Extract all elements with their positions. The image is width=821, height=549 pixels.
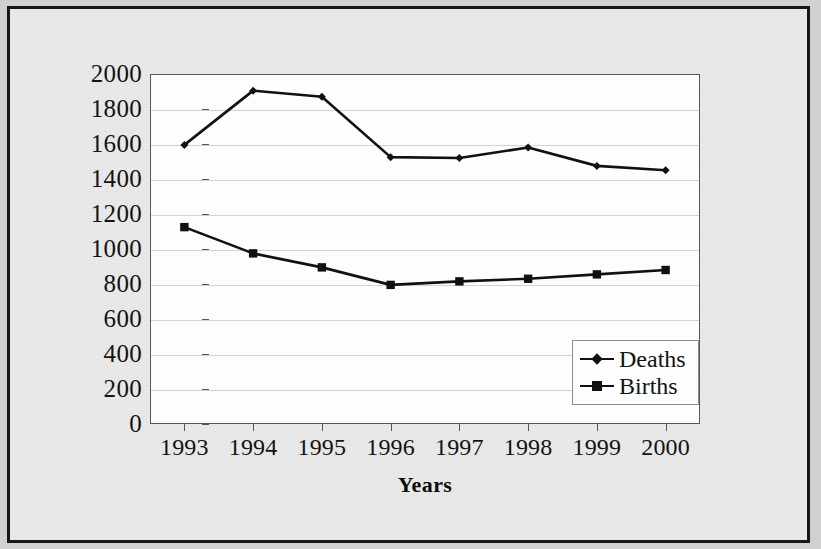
data-point-deaths [662, 166, 670, 174]
data-point-births [249, 249, 257, 257]
legend-label-births: Births [619, 374, 678, 398]
data-point-deaths [593, 162, 601, 170]
x-axis-tick-label: 1993 [160, 434, 209, 461]
data-point-deaths [524, 144, 532, 152]
x-axis-tick-label: 1999 [572, 434, 621, 461]
legend-item-deaths: Deaths [580, 345, 686, 372]
x-axis-tick-label: 1994 [229, 434, 278, 461]
x-axis-tick-mark [184, 424, 185, 431]
data-point-births [455, 277, 463, 285]
x-axis: 19931994199519961997199819992000 [150, 434, 700, 468]
legend-marker-diamond-icon [580, 352, 614, 366]
x-axis-tick-label: 1996 [366, 434, 415, 461]
y-axis-tick-label: 2000 [91, 60, 142, 88]
y-axis-tick-label: 600 [104, 305, 142, 333]
x-axis-title: Years [150, 472, 700, 498]
y-axis: 0200400600800100012001400160018002000 [60, 74, 142, 424]
data-point-births [318, 263, 326, 271]
x-axis-tick-label: 2000 [641, 434, 690, 461]
x-axis-tick-label: 1998 [504, 434, 553, 461]
series-line-deaths [184, 91, 665, 171]
line-chart: 0200400600800100012001400160018002000 19… [0, 0, 821, 549]
x-axis-tick-mark [391, 424, 392, 431]
x-axis-tick-mark [322, 424, 323, 431]
y-axis-tick-mark [202, 424, 209, 425]
legend: Deaths Births [572, 340, 699, 405]
data-point-births [386, 281, 394, 289]
data-point-births [593, 270, 601, 278]
x-axis-tick-label: 1997 [435, 434, 484, 461]
y-axis-tick-label: 800 [104, 270, 142, 298]
x-axis-tick-mark [459, 424, 460, 431]
y-axis-tick-label: 1200 [91, 200, 142, 228]
data-point-deaths [455, 154, 463, 162]
y-axis-tick-label: 1600 [91, 130, 142, 158]
x-axis-tick-mark [666, 424, 667, 431]
y-axis-tick-label: 400 [104, 340, 142, 368]
x-axis-tick-mark [528, 424, 529, 431]
y-axis-tick-label: 1400 [91, 165, 142, 193]
y-axis-tick-label: 0 [129, 410, 142, 438]
x-axis-tick-mark [597, 424, 598, 431]
y-axis-tick-label: 1800 [91, 95, 142, 123]
y-axis-tick-label: 200 [104, 375, 142, 403]
legend-item-births: Births [580, 372, 686, 399]
legend-marker-square-icon [580, 379, 614, 393]
legend-label-deaths: Deaths [619, 347, 686, 371]
data-point-births [661, 266, 669, 274]
data-point-births [180, 223, 188, 231]
data-point-births [524, 275, 532, 283]
x-axis-tick-mark [253, 424, 254, 431]
y-axis-tick-label: 1000 [91, 235, 142, 263]
x-axis-tick-label: 1995 [297, 434, 346, 461]
